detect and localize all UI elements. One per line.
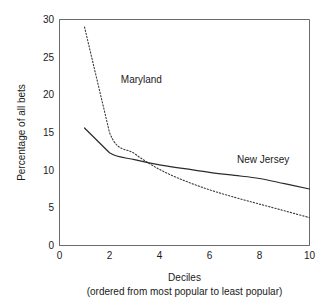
- y-tick-label-20: 20: [43, 89, 55, 100]
- series-label-maryland: Maryland: [121, 74, 162, 85]
- y-tick-label-25: 25: [43, 52, 55, 63]
- y-axis-tick-labels: 0 5 10 15 20 25 30: [43, 14, 55, 251]
- y-tick-label-30: 30: [43, 14, 55, 25]
- x-axis-tick-labels: 0 2 4 6 8 10: [57, 250, 316, 261]
- x-tick-label-10: 10: [304, 250, 316, 261]
- series-group: [60, 20, 310, 245]
- series-label-new-jersey: New Jersey: [237, 154, 289, 165]
- line-chart-svg: 0 5 10 15 20 25 30 0 2 4 6: [0, 0, 329, 305]
- x-tick-label-2: 2: [107, 250, 113, 261]
- y-axis-label: Percentage of all bets: [16, 84, 27, 181]
- x-tick-label-6: 6: [207, 250, 213, 261]
- x-tick-label-4: 4: [157, 250, 163, 261]
- y-tick-label-10: 10: [43, 165, 55, 176]
- chart-figure: 0 5 10 15 20 25 30 0 2 4 6: [0, 0, 329, 305]
- x-tick-label-0: 0: [57, 250, 63, 261]
- x-tick-label-8: 8: [257, 250, 263, 261]
- plot-mask: [60, 20, 309, 245]
- y-tick-label-15: 15: [43, 127, 55, 138]
- y-tick-label-0: 0: [48, 240, 54, 251]
- y-tick-label-5: 5: [48, 202, 54, 213]
- x-axis-label: Deciles: [168, 272, 201, 283]
- x-axis-sublabel: (ordered from most popular to least popu…: [87, 286, 283, 297]
